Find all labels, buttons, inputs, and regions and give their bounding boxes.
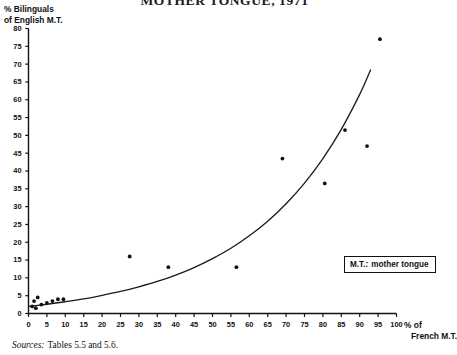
x-tick-label: 10 bbox=[56, 320, 74, 329]
x-tick-label: 5 bbox=[38, 320, 56, 329]
x-tick-label: 65 bbox=[259, 320, 277, 329]
data-point bbox=[56, 297, 60, 301]
y-tick-label: 45 bbox=[6, 149, 22, 158]
x-tick-label: 40 bbox=[167, 320, 185, 329]
legend-expansion: mother tongue bbox=[368, 260, 428, 269]
y-tick-label: 55 bbox=[6, 113, 22, 122]
y-tick-label: 40 bbox=[6, 166, 22, 175]
y-tick-label: 30 bbox=[6, 202, 22, 211]
trend-curve bbox=[29, 69, 371, 306]
x-tick-label: 30 bbox=[130, 320, 148, 329]
data-point bbox=[166, 265, 170, 269]
data-point bbox=[235, 265, 239, 269]
data-points bbox=[30, 37, 382, 310]
data-point bbox=[30, 304, 34, 308]
x-tick-label: 20 bbox=[93, 320, 111, 329]
data-point bbox=[39, 303, 43, 307]
x-tick-label: 55 bbox=[222, 320, 240, 329]
y-tick-label: 0 bbox=[6, 309, 22, 318]
y-tick-label: 15 bbox=[6, 255, 22, 264]
data-point bbox=[62, 297, 66, 301]
y-tick-label: 65 bbox=[6, 77, 22, 86]
data-point bbox=[378, 37, 382, 41]
y-tick-label: 70 bbox=[6, 60, 22, 69]
axes bbox=[25, 29, 396, 317]
data-point bbox=[281, 157, 285, 161]
y-tick-label: 50 bbox=[6, 131, 22, 140]
data-point bbox=[343, 128, 347, 132]
data-point bbox=[128, 255, 132, 259]
x-tick-label: 100 bbox=[388, 320, 406, 329]
data-point bbox=[45, 301, 49, 305]
x-tick-label: 80 bbox=[314, 320, 332, 329]
x-tick-label: 35 bbox=[148, 320, 166, 329]
source-note: Sources:Tables 5.5 and 5.6. bbox=[12, 340, 118, 350]
x-tick-label: 15 bbox=[75, 320, 93, 329]
legend-box: M.T.:mother tongue bbox=[344, 256, 436, 273]
y-tick-label: 25 bbox=[6, 220, 22, 229]
x-tick-label: 70 bbox=[277, 320, 295, 329]
source-label: Sources: bbox=[12, 340, 44, 350]
data-point bbox=[34, 306, 38, 310]
data-point bbox=[51, 299, 55, 303]
x-tick-label: 75 bbox=[296, 320, 314, 329]
data-point bbox=[365, 144, 369, 148]
y-tick-label: 5 bbox=[6, 291, 22, 300]
x-tick-label: 45 bbox=[185, 320, 203, 329]
x-tick-label: 60 bbox=[240, 320, 258, 329]
y-tick-label: 20 bbox=[6, 238, 22, 247]
x-tick-label: 0 bbox=[20, 320, 38, 329]
y-tick-label: 60 bbox=[6, 95, 22, 104]
data-point bbox=[36, 296, 40, 300]
x-tick-label: 50 bbox=[204, 320, 222, 329]
data-point bbox=[32, 299, 36, 303]
x-tick-label: 85 bbox=[332, 320, 350, 329]
x-tick-label: 90 bbox=[351, 320, 369, 329]
y-tick-label: 35 bbox=[6, 184, 22, 193]
source-text: Tables 5.5 and 5.6. bbox=[44, 340, 118, 350]
x-tick-label: 25 bbox=[112, 320, 130, 329]
y-tick-label: 10 bbox=[6, 273, 22, 282]
y-tick-label: 75 bbox=[6, 42, 22, 51]
legend-abbreviation: M.T.: bbox=[350, 260, 368, 269]
y-tick-label: 80 bbox=[6, 24, 22, 33]
data-point bbox=[323, 182, 327, 186]
x-tick-label: 95 bbox=[369, 320, 387, 329]
